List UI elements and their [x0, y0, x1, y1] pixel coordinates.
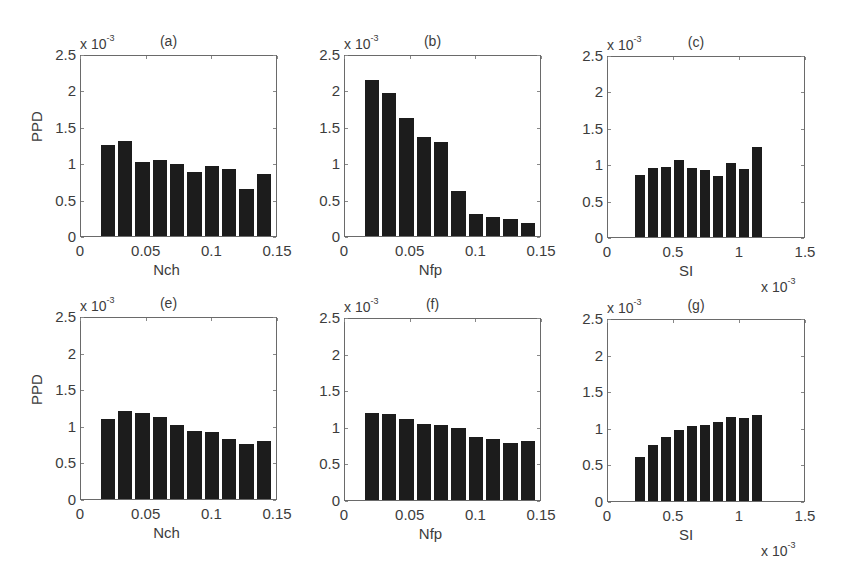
y-tick-mark	[273, 55, 276, 56]
x-axis-label: Nfp	[401, 261, 461, 278]
exponent-base: x 10	[607, 37, 633, 53]
y-tick-mark	[537, 91, 540, 92]
y-tick-mark	[273, 463, 276, 464]
y-tick-mark	[81, 128, 84, 129]
histogram-bar	[713, 422, 723, 501]
histogram-bar	[451, 191, 465, 236]
x-tick-mark	[607, 320, 608, 323]
histogram-bar	[674, 430, 684, 501]
histogram-bar	[417, 424, 431, 500]
x-tick-label: 1	[719, 243, 759, 260]
y-tick-label: 1.5	[310, 119, 340, 136]
x-tick-label: 0.05	[390, 506, 430, 523]
histogram-bar	[205, 432, 219, 499]
x-tick-label: 1	[719, 507, 759, 524]
y-tick-mark	[801, 238, 804, 239]
y-tick-label: 1	[310, 419, 340, 436]
y-tick-label: 1	[310, 155, 340, 172]
exponent-power: -3	[633, 297, 641, 307]
y-tick-label: 0.5	[46, 454, 76, 471]
y-tick-mark	[801, 92, 804, 93]
x-tick-mark	[475, 319, 476, 322]
histogram-bar	[434, 425, 448, 500]
histogram-bar	[417, 137, 431, 236]
subplot-title: (f)	[413, 296, 453, 312]
y-tick-mark	[345, 428, 348, 429]
x-tick-label: 1.5	[785, 507, 825, 524]
exponent-power: -3	[370, 33, 378, 43]
x-tick-mark	[277, 56, 278, 59]
y-tick-mark	[345, 318, 348, 319]
y-tick-mark	[273, 317, 276, 318]
y-tick-mark	[608, 92, 611, 93]
subplot-title: (a)	[149, 33, 189, 49]
x-tick-label: 0.05	[126, 505, 166, 522]
x-tick-label: 0.1	[455, 506, 495, 523]
histogram-bar	[661, 437, 671, 501]
histogram-bar	[434, 142, 448, 236]
x-tick-label: 0.5	[653, 243, 693, 260]
y-tick-mark	[801, 502, 804, 503]
x-tick-mark	[344, 56, 345, 59]
subplot-title: (g)	[676, 297, 716, 313]
x-tick-mark	[277, 318, 278, 321]
x-tick-label: 0.15	[257, 242, 297, 259]
y-tick-mark	[273, 390, 276, 391]
y-tick-mark	[608, 502, 611, 503]
y-tick-label: 1.5	[46, 381, 76, 398]
y-exponent-label: x 10-3	[607, 299, 641, 316]
y-tick-mark	[537, 237, 540, 238]
x-tick-mark	[211, 318, 212, 321]
y-tick-mark	[537, 355, 540, 356]
y-tick-mark	[801, 429, 804, 430]
y-tick-mark	[801, 319, 804, 320]
x-exponent-label: x 10-3	[761, 278, 795, 295]
y-tick-label: 2	[573, 83, 603, 100]
x-tick-label: 0.15	[521, 506, 561, 523]
exponent-base: x 10	[607, 300, 633, 316]
y-tick-mark	[345, 128, 348, 129]
y-tick-label: 2	[310, 346, 340, 363]
histogram-bar	[153, 160, 167, 236]
y-tick-label: 1.5	[573, 383, 603, 400]
histogram-bar	[118, 141, 132, 236]
histogram-bar	[101, 145, 115, 236]
y-tick-mark	[608, 319, 611, 320]
histogram-bar	[153, 417, 167, 499]
y-tick-mark	[537, 128, 540, 129]
histogram-bar	[739, 418, 749, 501]
y-exponent-label: x 10-3	[80, 35, 114, 52]
subplot-title: (c)	[676, 34, 716, 50]
y-tick-mark	[537, 55, 540, 56]
x-tick-mark	[673, 320, 674, 323]
x-tick-label: 0.15	[521, 242, 561, 259]
y-tick-mark	[81, 201, 84, 202]
x-tick-label: 0	[324, 242, 364, 259]
histogram-bar	[700, 425, 710, 501]
histogram-bar	[648, 445, 658, 501]
x-axis-label: SI	[656, 262, 716, 279]
exponent-power: -3	[370, 296, 378, 306]
x-tick-label: 0.1	[455, 242, 495, 259]
x-tick-label: 0	[587, 507, 627, 524]
histogram-bar	[135, 413, 149, 499]
subplot-title: (e)	[149, 295, 189, 311]
y-tick-label: 2	[46, 345, 76, 362]
subplot-title: (b)	[413, 33, 453, 49]
histogram-bar	[503, 219, 517, 236]
y-tick-label: 2.5	[46, 308, 76, 325]
y-exponent-label: x 10-3	[607, 36, 641, 53]
y-tick-label: 1	[573, 420, 603, 437]
y-tick-label: 2.5	[310, 309, 340, 326]
histogram-bar	[382, 414, 396, 500]
y-tick-mark	[273, 427, 276, 428]
y-tick-label: 2.5	[310, 46, 340, 63]
y-tick-mark	[81, 55, 84, 56]
histogram-bar	[469, 437, 483, 500]
y-tick-mark	[801, 56, 804, 57]
y-tick-label: 0.5	[573, 193, 603, 210]
x-tick-mark	[80, 318, 81, 321]
y-tick-mark	[608, 429, 611, 430]
y-tick-mark	[81, 317, 84, 318]
histogram-bar	[687, 168, 697, 237]
